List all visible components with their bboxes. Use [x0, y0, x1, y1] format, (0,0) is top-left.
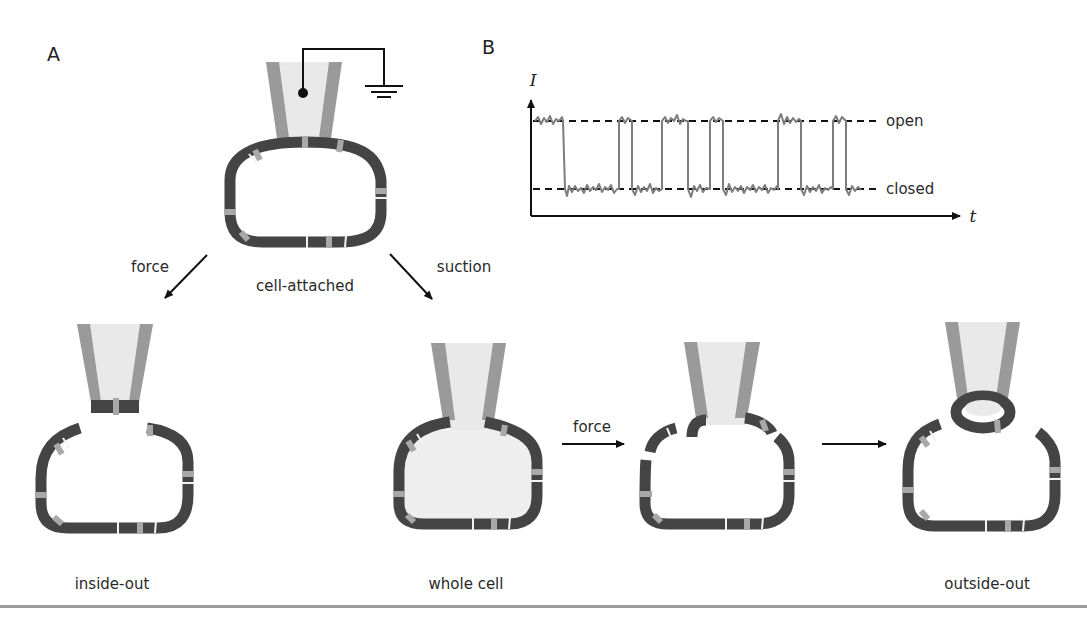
transition-force-to-inside-out: force — [131, 255, 207, 298]
transition-label: force — [131, 258, 169, 276]
y-axis-label: I — [529, 70, 537, 90]
panel-label-a: A — [47, 43, 60, 65]
outside-out-config: outside-out — [902, 322, 1061, 593]
current-trace — [535, 114, 861, 197]
transition-force-to-intermediate: force — [562, 418, 624, 444]
single-channel-trace-chart: I t open closed — [529, 70, 977, 226]
inside-out-config: inside-out — [36, 324, 194, 593]
config-label-cell-attached: cell-attached — [256, 277, 354, 295]
panel-label-b: B — [482, 36, 495, 58]
cell-membrane-open — [645, 437, 789, 524]
closed-level-label: closed — [886, 180, 934, 198]
intermediate-config — [640, 342, 795, 530]
patch-clamp-diagram: A B cell-attached — [0, 0, 1087, 623]
config-label-whole-cell: whole cell — [429, 575, 504, 593]
config-label-inside-out: inside-out — [75, 575, 150, 593]
config-label-outside-out: outside-out — [944, 575, 1030, 593]
arrow-icon — [165, 255, 207, 298]
cell-membrane — [230, 142, 381, 242]
cell-membrane-open — [908, 424, 1055, 526]
whole-cell-config: whole cell — [393, 343, 543, 593]
transition-label: suction — [437, 258, 491, 276]
bottom-divider — [0, 605, 1087, 608]
cell-attached-config: cell-attached — [224, 49, 403, 295]
x-axis-label: t — [970, 206, 977, 226]
transition-suction-to-whole-cell: suction — [390, 254, 491, 299]
open-level-label: open — [886, 112, 923, 130]
cell-membrane-open — [41, 428, 188, 528]
transition-label: force — [573, 418, 611, 436]
arrow-icon — [390, 254, 432, 299]
